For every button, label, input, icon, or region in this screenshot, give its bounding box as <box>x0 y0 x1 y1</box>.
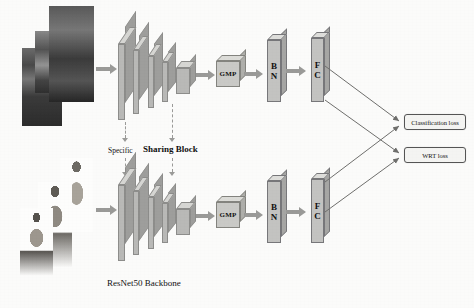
label-resnet50-backbone: ResNet50 Backbone <box>107 278 181 288</box>
loss-box-wrt[interactable]: WRT loss <box>404 147 466 163</box>
fc-label-bottom-line1: F <box>315 201 321 211</box>
bn-label-bottom-line1: B <box>271 202 277 212</box>
dashed-arrow-sharing <box>169 138 175 142</box>
label-specific: Specific <box>108 146 133 155</box>
conv-slab-2-bottom <box>133 191 139 255</box>
bn-label-top-line1: B <box>271 61 277 71</box>
dashed-arrow-sharing-bottom <box>169 172 175 176</box>
conv-slab-3-bottom <box>148 197 154 249</box>
conv-slab-4-bottom <box>162 203 168 243</box>
conv-block-final-top <box>176 68 190 94</box>
conv-slab-3-top <box>148 56 154 108</box>
fc-label-top-line1: F <box>315 60 321 70</box>
fc-block-top: F C <box>311 38 324 102</box>
dashed-connector-sharing <box>172 104 173 138</box>
fc-label-bottom: F C <box>311 179 324 243</box>
photo-input-1 <box>49 6 94 102</box>
dashed-arrow-specific <box>122 138 128 142</box>
sketch-input-1 <box>20 208 53 276</box>
gmp-label-bottom: GMP <box>216 202 240 228</box>
conv-slab-1-top <box>118 44 125 120</box>
arrow-bn-to-fc-bottom <box>286 207 306 217</box>
gmp-block-top: GMP <box>216 61 240 87</box>
arrow-photo-to-backbone <box>96 64 117 74</box>
bn-block-bottom: B N <box>267 181 281 243</box>
loss-box-classification[interactable]: Classification loss <box>404 114 466 130</box>
dashed-connector-specific <box>125 122 126 138</box>
fc-label-top-line2: C <box>314 70 321 80</box>
bn-label-top-line2: N <box>271 71 278 81</box>
fc-block-bottom: F C <box>311 179 324 243</box>
conv-slab-2-top <box>133 50 139 114</box>
sketch-input-stack <box>20 158 95 276</box>
fc-label-top: F C <box>311 38 324 102</box>
conv-slab-4-top <box>162 62 168 102</box>
bn-block-top: B N <box>267 40 281 102</box>
gmp-block-bottom: GMP <box>216 202 240 228</box>
label-sharing-block: Sharing Block <box>143 144 198 154</box>
bn-label-top: B N <box>267 40 281 102</box>
bn-label-bottom-line2: N <box>271 212 278 222</box>
fc-label-bottom-line2: C <box>314 211 321 221</box>
arrow-backbone-to-gmp-top <box>196 70 215 80</box>
arrow-backbone-to-gmp-bottom <box>196 211 215 221</box>
arrow-bn-to-fc-top <box>286 66 306 76</box>
diagram-canvas: GMP B N F C Specific Sharing Block <box>0 0 474 308</box>
gmp-label-top: GMP <box>216 61 240 87</box>
photo-input-stack <box>22 6 94 126</box>
conv-block-final-bottom <box>176 209 190 235</box>
dashed-connector-sharing-bottom <box>172 158 173 172</box>
bn-label-bottom: B N <box>267 181 281 243</box>
conv-slab-1-bottom <box>118 185 125 261</box>
arrow-sketch-to-backbone <box>96 205 117 215</box>
arrow-gmp-to-bn-top <box>244 69 263 79</box>
arrow-gmp-to-bn-bottom <box>244 210 263 220</box>
